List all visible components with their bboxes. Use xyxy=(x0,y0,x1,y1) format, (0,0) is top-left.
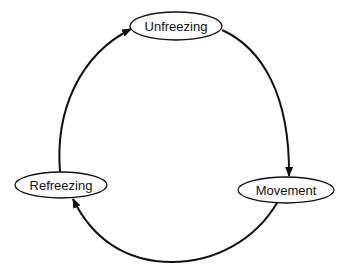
node-label-movement: Movement xyxy=(256,183,317,198)
node-label-unfreezing: Unfreezing xyxy=(145,19,208,34)
node-movement: Movement xyxy=(238,177,334,203)
node-label-refreezing: Refreezing xyxy=(30,178,93,193)
diagram-svg: Unfreezing Movement Refreezing xyxy=(0,0,341,275)
cycle-diagram: Unfreezing Movement Refreezing xyxy=(0,0,341,275)
arrow-refreezing-to-unfreezing xyxy=(59,29,131,172)
arrow-unfreezing-to-movement xyxy=(222,30,289,176)
node-unfreezing: Unfreezing xyxy=(130,12,222,40)
arrow-movement-to-refreezing xyxy=(73,199,277,262)
node-refreezing: Refreezing xyxy=(15,172,107,198)
